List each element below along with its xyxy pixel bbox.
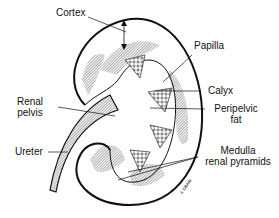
label-peripelvic-fat: Peripelvic fat bbox=[206, 103, 266, 125]
label-papilla: Papilla bbox=[194, 40, 224, 51]
label-renal-pelvis: Renal pelvis bbox=[6, 96, 54, 118]
renal-pyramid bbox=[150, 125, 172, 148]
label-cortex: Cortex bbox=[56, 7, 85, 18]
ureter bbox=[50, 95, 118, 192]
label-medulla: Medulla renal pyramids bbox=[198, 145, 278, 167]
label-calyx: Calyx bbox=[208, 85, 233, 96]
label-ureter: Ureter bbox=[15, 146, 43, 157]
